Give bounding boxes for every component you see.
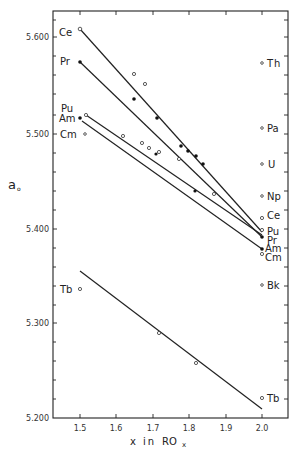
label-right-tb: Tb [266, 393, 279, 404]
svg-text:x: x [130, 436, 136, 447]
label-right-pa: Pa [267, 123, 279, 134]
y-tick-label: 5.300 [26, 319, 49, 328]
y-tick-label: 5.600 [26, 33, 49, 42]
label-right-u: U [268, 159, 275, 170]
line-tb [80, 271, 262, 409]
label-left-cm: Cm [60, 129, 77, 140]
label-right-th: Th [266, 58, 281, 69]
x-tick-label: 1.5 [74, 424, 87, 433]
label-left-ce: Ce [59, 27, 72, 38]
x-tick-label: 2.0 [256, 424, 269, 433]
y-axis-ticks-right [284, 20, 288, 399]
lattice-parameter-chart: 5.600 5.500 5.400 5.300 5.200 1.5 1.6 1.… [0, 0, 297, 449]
filled-markers [78, 60, 264, 251]
x-tick-label: 1.8 [183, 424, 196, 433]
label-left-am: Am [59, 113, 76, 124]
svg-text:in: in [143, 436, 156, 447]
label-right-cm: Cm [265, 252, 282, 263]
plot-frame [53, 11, 288, 418]
svg-text:x: x [182, 441, 186, 449]
x-axis-ticks [80, 11, 262, 418]
svg-text:RO: RO [162, 436, 177, 447]
x-tick-label: 1.7 [147, 424, 160, 433]
label-left-pr: Pr [60, 56, 71, 67]
x-tick-label: 1.6 [110, 424, 123, 433]
line-am [82, 121, 262, 249]
label-left-tb: Tb [59, 284, 72, 295]
x-tick-label: 1.9 [220, 424, 233, 433]
x-axis-title: x in RO x [130, 436, 186, 449]
y-tick-label: 5.400 [26, 225, 49, 234]
label-right-np: Np [267, 191, 281, 202]
open-markers [78, 27, 263, 399]
label-right-bk: Bk [267, 280, 280, 291]
label-right-ce: Ce [267, 210, 280, 221]
svg-text:a: a [8, 177, 16, 192]
line-ce [80, 29, 262, 232]
y-tick-label: 5.500 [26, 130, 49, 139]
trend-lines [80, 29, 262, 409]
svg-text:o: o [17, 185, 21, 192]
y-tick-label: 5.200 [26, 414, 49, 423]
y-axis-ticks-left [53, 20, 57, 399]
y-axis-title: a o [8, 177, 21, 192]
line-pr [80, 62, 262, 237]
